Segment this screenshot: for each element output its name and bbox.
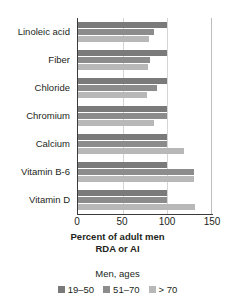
x-tick-label: 50	[116, 216, 127, 227]
bar	[78, 64, 148, 70]
bar	[78, 113, 167, 119]
bar	[78, 190, 167, 196]
legend-label: > 70	[159, 284, 178, 295]
legend-swatch-icon	[58, 286, 65, 293]
bar	[78, 57, 150, 63]
bar	[78, 148, 184, 154]
bar	[78, 169, 194, 175]
y-axis-label: Vitamin B-6	[21, 167, 70, 177]
legend-label: 19–50	[68, 284, 94, 295]
legend-title: Men, ages	[0, 268, 235, 279]
bar	[78, 141, 167, 147]
x-axis-tick-labels: 050100150	[77, 216, 212, 230]
y-axis-label: Fiber	[48, 55, 70, 65]
bar-group	[78, 130, 212, 158]
bar	[78, 162, 167, 168]
x-tick-label: 150	[204, 216, 221, 227]
x-axis-title-line-2: RDA or AI	[0, 243, 235, 255]
legend-items: 19–5051–70> 70	[0, 284, 235, 295]
y-axis-label: Calcium	[36, 139, 70, 149]
bar	[78, 22, 167, 28]
x-tick-label: 100	[159, 216, 176, 227]
y-axis-label: Vitamin D	[29, 195, 70, 205]
bar	[78, 78, 167, 84]
legend: Men, ages 19–5051–70> 70	[0, 268, 235, 295]
bar-group	[78, 46, 212, 74]
bar-group	[78, 186, 212, 214]
bar	[78, 176, 194, 182]
bar-group	[78, 18, 212, 46]
bar	[78, 204, 195, 210]
bar	[78, 50, 167, 56]
bar	[78, 106, 167, 112]
legend-label: 51–70	[113, 284, 139, 295]
y-axis-category-labels: Linoleic acidFiberChlorideChromiumCalciu…	[0, 18, 74, 214]
x-tick-label: 0	[74, 216, 80, 227]
legend-item: 19–50	[58, 284, 94, 295]
x-axis-title: Percent of adult men RDA or AI	[0, 231, 235, 255]
legend-item: > 70	[149, 284, 178, 295]
bar-groups	[78, 18, 212, 214]
x-axis-title-line-1: Percent of adult men	[0, 231, 235, 243]
bar	[78, 85, 157, 91]
legend-swatch-icon	[149, 286, 156, 293]
plot-area	[77, 18, 212, 214]
bar-group	[78, 102, 212, 130]
y-axis-label: Chloride	[35, 83, 70, 93]
bar	[78, 197, 167, 203]
bar-group	[78, 74, 212, 102]
legend-item: 51–70	[103, 284, 139, 295]
y-axis-label: Linoleic acid	[18, 27, 70, 37]
bar	[78, 134, 167, 140]
bar	[78, 29, 154, 35]
legend-swatch-icon	[103, 286, 110, 293]
bar	[78, 36, 149, 42]
bar	[78, 120, 154, 126]
y-axis-label: Chromium	[26, 111, 70, 121]
nutrient-intake-bar-chart: Linoleic acidFiberChlorideChromiumCalciu…	[0, 0, 235, 308]
bar	[78, 92, 147, 98]
bar-group	[78, 158, 212, 186]
